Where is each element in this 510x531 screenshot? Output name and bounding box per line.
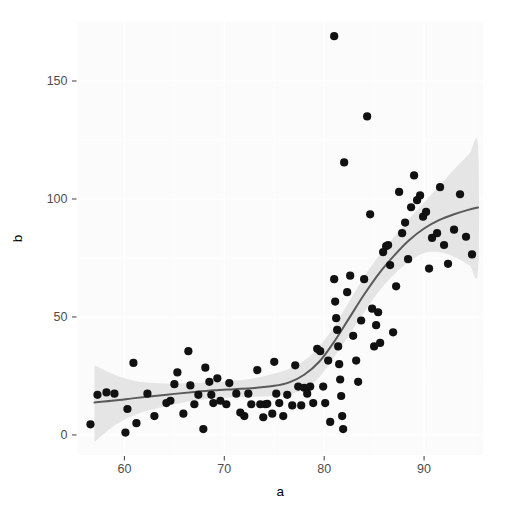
x-tick-label: 80 bbox=[317, 462, 331, 476]
scatter-point bbox=[253, 366, 261, 374]
y-tick-label: 0 bbox=[61, 428, 68, 442]
scatter-point bbox=[199, 425, 207, 433]
scatter-point bbox=[170, 380, 178, 388]
scatter-point bbox=[225, 379, 233, 387]
scatter-point bbox=[184, 347, 192, 355]
scatter-point bbox=[326, 418, 334, 426]
scatter-point bbox=[422, 208, 430, 216]
scatter-point bbox=[244, 390, 252, 398]
x-tick-label: 90 bbox=[417, 462, 431, 476]
scatter-point bbox=[360, 275, 368, 283]
scatter-point bbox=[386, 261, 394, 269]
scatter-point bbox=[395, 188, 403, 196]
scatter-point bbox=[297, 401, 305, 409]
scatter-point bbox=[272, 390, 280, 398]
scatter-point bbox=[319, 382, 327, 390]
scatter-point bbox=[306, 382, 314, 390]
scatter-point bbox=[123, 405, 131, 413]
scatter-point bbox=[209, 399, 217, 407]
scatter-point bbox=[316, 347, 324, 355]
scatter-point bbox=[333, 326, 341, 334]
scatter-point bbox=[201, 364, 209, 372]
scatter-point bbox=[374, 308, 382, 316]
scatter-point bbox=[232, 390, 240, 398]
scatter-point bbox=[283, 391, 291, 399]
scatter-point bbox=[173, 368, 181, 376]
scatter-point bbox=[401, 218, 409, 226]
scatter-point bbox=[338, 412, 346, 420]
scatter-point bbox=[268, 410, 276, 418]
scatter-point bbox=[93, 391, 101, 399]
scatter-point bbox=[143, 390, 151, 398]
scatter-point bbox=[259, 413, 267, 421]
scatter-point bbox=[179, 410, 187, 418]
scatter-point bbox=[275, 399, 283, 407]
scatter-point bbox=[354, 378, 362, 386]
scatter-point bbox=[190, 400, 198, 408]
scatter-point bbox=[456, 190, 464, 198]
scatter-point bbox=[343, 288, 351, 296]
scatter-point bbox=[332, 314, 340, 322]
scatter-point bbox=[240, 412, 248, 420]
scatter-point bbox=[129, 359, 137, 367]
y-tick-label: 100 bbox=[47, 192, 68, 206]
x-tick-label: 60 bbox=[117, 462, 131, 476]
scatter-point bbox=[340, 158, 348, 166]
scatter-point bbox=[213, 374, 221, 382]
scatter-point bbox=[440, 241, 448, 249]
scatter-point bbox=[357, 316, 365, 324]
scatter-point bbox=[398, 229, 406, 237]
scatter-point bbox=[352, 357, 360, 365]
scatter-point bbox=[363, 112, 371, 120]
x-tick-label: 70 bbox=[217, 462, 231, 476]
scatter-point bbox=[436, 183, 444, 191]
scatter-point bbox=[331, 298, 339, 306]
scatter-point bbox=[247, 400, 255, 408]
scatter-point bbox=[186, 381, 194, 389]
scatter-point bbox=[86, 420, 94, 428]
scatter-point bbox=[279, 412, 287, 420]
scatter-point bbox=[321, 399, 329, 407]
y-tick-label: 150 bbox=[47, 74, 68, 88]
scatter-point bbox=[335, 360, 343, 368]
scatter-point bbox=[444, 260, 452, 268]
scatter-point bbox=[207, 391, 215, 399]
scatter-point bbox=[205, 378, 213, 386]
scatter-point bbox=[222, 400, 230, 408]
scatter-point bbox=[407, 203, 415, 211]
scatter-point bbox=[330, 32, 338, 40]
scatter-point bbox=[346, 272, 354, 280]
scatter-point bbox=[433, 229, 441, 237]
scatter-point bbox=[291, 361, 299, 369]
scatter-point bbox=[372, 321, 380, 329]
scatter-point bbox=[263, 400, 271, 408]
scatter-point bbox=[334, 342, 342, 350]
scatter-point bbox=[132, 419, 140, 427]
scatter-point bbox=[303, 390, 311, 398]
scatter-point bbox=[270, 358, 278, 366]
scatter-point bbox=[102, 388, 110, 396]
scatter-point bbox=[288, 401, 296, 409]
scatter-point bbox=[366, 210, 374, 218]
scatter-point bbox=[349, 332, 357, 340]
scatter-point bbox=[384, 241, 392, 249]
scatter-point bbox=[324, 357, 332, 365]
scatter-point bbox=[425, 264, 433, 272]
scatter-point bbox=[337, 392, 345, 400]
x-axis-title: a bbox=[276, 484, 284, 499]
scatter-point bbox=[462, 233, 470, 241]
scatter-point bbox=[376, 339, 384, 347]
scatter-point bbox=[410, 171, 418, 179]
scatter-point bbox=[309, 399, 317, 407]
scatter-point bbox=[389, 328, 397, 336]
chart-canvas: 60708090050100150ab bbox=[0, 0, 510, 531]
scatter-point bbox=[330, 275, 338, 283]
scatter-point bbox=[404, 255, 412, 263]
scatter-point bbox=[450, 226, 458, 234]
scatter-point bbox=[339, 425, 347, 433]
y-axis-title: b bbox=[10, 235, 25, 243]
scatter-point bbox=[392, 282, 400, 290]
scatter-plot-figure: 60708090050100150ab bbox=[0, 0, 510, 531]
scatter-point bbox=[166, 397, 174, 405]
scatter-point bbox=[416, 191, 424, 199]
